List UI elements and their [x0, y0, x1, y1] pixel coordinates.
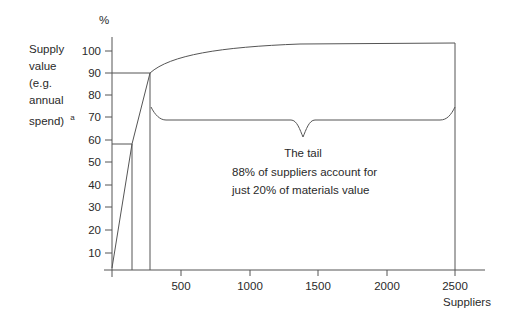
tail-text-line2: just 20% of materials value [231, 184, 369, 196]
svg-text:2000: 2000 [374, 280, 400, 292]
svg-text:60: 60 [88, 134, 101, 146]
x-ticks [112, 270, 455, 277]
y-axis-label: Supply value (e.g. annual spend)a [29, 41, 75, 130]
svg-text:20: 20 [88, 224, 101, 236]
svg-text:50: 50 [88, 156, 101, 168]
footnote-marker: a [70, 113, 74, 122]
y-ticks [105, 51, 112, 253]
x-axis-label: Suppliers [443, 296, 491, 308]
tail-title: The tail [284, 147, 322, 159]
svg-text:90: 90 [88, 67, 101, 79]
svg-text:70: 70 [88, 111, 101, 123]
svg-text:10: 10 [88, 247, 101, 259]
y-tick-labels: 100 90 80 70 60 50 40 30 20 10 [82, 45, 101, 259]
pareto-chart: 100 90 80 70 60 50 40 30 20 10 500 1000 … [0, 0, 515, 324]
x-tick-labels: 500 1000 1500 2000 2500 [171, 280, 467, 292]
svg-text:500: 500 [171, 280, 190, 292]
svg-text:2500: 2500 [442, 280, 468, 292]
svg-text:40: 40 [88, 179, 101, 191]
svg-text:30: 30 [88, 201, 101, 213]
svg-text:80: 80 [88, 89, 101, 101]
svg-text:100: 100 [82, 45, 101, 57]
svg-text:1500: 1500 [305, 280, 331, 292]
tail-brace [151, 107, 455, 137]
svg-text:1000: 1000 [237, 280, 263, 292]
tail-text-line1: 88% of suppliers account for [232, 166, 377, 178]
y-unit-label: % [99, 14, 109, 26]
